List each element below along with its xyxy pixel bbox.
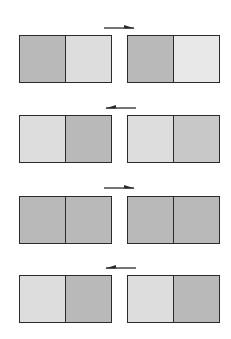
arrow-left-icon	[104, 103, 136, 111]
square-right	[173, 36, 219, 82]
square-left	[20, 197, 65, 243]
square-right	[173, 197, 219, 243]
square-right	[65, 116, 111, 162]
box-pair-row2-left	[19, 115, 112, 163]
box-pair-row3-left	[19, 196, 112, 244]
square-left	[20, 116, 65, 162]
square-right	[65, 36, 111, 82]
square-right	[173, 116, 219, 162]
square-left	[20, 36, 65, 82]
arrow-right-icon	[104, 23, 136, 31]
box-pair-row1-right	[127, 35, 220, 83]
square-right	[65, 197, 111, 243]
square-left	[128, 116, 173, 162]
box-pair-row4-left	[19, 275, 112, 323]
box-pair-row4-right	[127, 275, 220, 323]
square-left	[128, 197, 173, 243]
box-pair-row2-right	[127, 115, 220, 163]
square-right	[173, 276, 219, 322]
box-pair-row1-left	[19, 35, 112, 83]
square-left	[20, 276, 65, 322]
arrow-left-icon	[104, 263, 136, 271]
box-pair-row3-right	[127, 196, 220, 244]
arrow-right-icon	[104, 183, 136, 191]
square-right	[65, 276, 111, 322]
square-left	[128, 276, 173, 322]
square-left	[128, 36, 173, 82]
